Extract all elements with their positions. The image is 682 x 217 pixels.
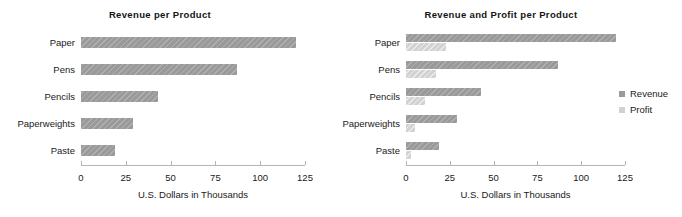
category-label: Pens (53, 65, 75, 75)
bar-group: Pencils (406, 84, 625, 111)
x-axis-tick (126, 161, 127, 165)
bar-profit (406, 97, 425, 105)
x-axis-tick-label: 100 (573, 173, 589, 183)
category-label: Pens (378, 65, 400, 75)
x-axis-tick-label: 50 (488, 173, 499, 183)
bar-revenue (81, 64, 237, 75)
x-axis-tick-label: 25 (121, 173, 132, 183)
x-axis-title: U.S. Dollars in Thousands (406, 190, 625, 200)
x-axis-tick (625, 161, 626, 165)
x-axis-line (81, 165, 305, 166)
legend-label: Profit (630, 105, 652, 115)
bar-group: Pens (81, 57, 305, 84)
plot-area: PaperPensPencilsPaperweightsPaste0255075… (81, 30, 305, 165)
x-axis-tick-label: 75 (210, 173, 221, 183)
chart-revenue-per-product: Revenue per Product PaperPensPencilsPape… (0, 0, 341, 217)
legend-swatch-icon (619, 91, 625, 97)
x-axis-tick (450, 161, 451, 165)
x-axis-tick (215, 161, 216, 165)
bar-revenue (406, 34, 616, 42)
bar-group: Paperweights (406, 111, 625, 138)
bar-revenue (406, 142, 439, 150)
bar-revenue (81, 118, 133, 129)
x-axis-line (406, 165, 625, 166)
bar-profit (406, 70, 436, 78)
x-axis-tick-label: 0 (78, 173, 83, 183)
category-label: Paper (50, 38, 75, 48)
x-axis-tick-label: 25 (445, 173, 456, 183)
x-axis-tick-label: 50 (165, 173, 176, 183)
x-axis-tick (81, 161, 82, 165)
bar-profit (406, 43, 446, 51)
chart-title: Revenue and Profit per Product (341, 9, 661, 20)
legend-item-revenue: Revenue (619, 86, 668, 102)
bar-revenue (81, 91, 158, 102)
legend-swatch-icon (619, 107, 625, 113)
legend-label: Revenue (630, 89, 668, 99)
x-axis-tick (494, 161, 495, 165)
x-axis-tick (260, 161, 261, 165)
x-axis-tick-label: 0 (403, 173, 408, 183)
bar-group: Paperweights (81, 111, 305, 138)
x-axis-tick (537, 161, 538, 165)
category-label: Pencils (369, 92, 400, 102)
category-label: Paperweights (17, 119, 75, 129)
x-axis-tick (581, 161, 582, 165)
bar-group: Pens (406, 57, 625, 84)
x-axis-tick-label: 75 (532, 173, 543, 183)
bar-revenue (406, 61, 558, 69)
bar-revenue (406, 115, 457, 123)
bar-group: Paste (81, 138, 305, 165)
chart-revenue-and-profit-per-product: Revenue and Profit per Product PaperPens… (341, 0, 682, 217)
chart-legend: RevenueProfit (619, 86, 668, 118)
bar-group: Paper (81, 30, 305, 57)
x-axis-tick-label: 100 (252, 173, 268, 183)
x-axis-title: U.S. Dollars in Thousands (81, 190, 305, 200)
x-axis-tick-label: 125 (617, 173, 633, 183)
bar-group: Pencils (81, 84, 305, 111)
category-label: Paste (376, 146, 400, 156)
category-label: Paperweights (342, 119, 400, 129)
bar-profit (406, 151, 411, 159)
category-label: Paste (51, 146, 75, 156)
chart-title: Revenue per Product (0, 9, 320, 20)
legend-item-profit: Profit (619, 102, 668, 118)
category-label: Pencils (44, 92, 75, 102)
bar-revenue (81, 37, 296, 48)
bar-group: Paper (406, 30, 625, 57)
category-label: Paper (375, 38, 400, 48)
x-axis-tick (171, 161, 172, 165)
bar-group: Paste (406, 138, 625, 165)
x-axis-tick-label: 125 (297, 173, 313, 183)
bar-revenue (81, 145, 115, 156)
bar-revenue (406, 88, 481, 96)
plot-area: PaperPensPencilsPaperweightsPaste0255075… (406, 30, 625, 165)
bar-profit (406, 124, 415, 132)
x-axis-tick (305, 161, 306, 165)
x-axis-tick (406, 161, 407, 165)
figure-canvas: Revenue per Product PaperPensPencilsPape… (0, 0, 682, 217)
